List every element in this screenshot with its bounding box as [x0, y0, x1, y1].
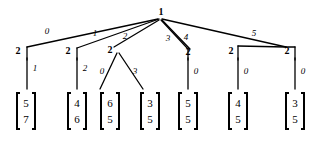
edge-label-leaf-0: 1	[30, 64, 40, 73]
leaf-vector-5: 4 5	[224, 92, 252, 130]
matrix-cells: 6 5	[105, 92, 115, 130]
node-internal-3: 2	[183, 47, 193, 57]
matrix-cell: 6	[107, 95, 113, 111]
edge-label-leaf-4: 0	[191, 67, 201, 76]
matrix-cell: 5	[107, 111, 113, 127]
bracket-right-icon	[243, 92, 248, 130]
matrix-cells: 4 5	[233, 92, 243, 130]
bracket-right-icon	[155, 92, 160, 130]
matrix-cells: 3 5	[145, 92, 155, 130]
matrix-cell: 6	[74, 111, 80, 127]
matrix-cells: 5 7	[21, 92, 31, 130]
leaf-vector-0: 5 7	[12, 92, 40, 130]
edge-label-leaf-6: 0	[298, 67, 308, 76]
leaf-vector-4: 5 5	[174, 92, 202, 130]
edge-label-leaf-2: 0	[97, 67, 107, 76]
edge-label-root-2: 2	[120, 32, 130, 41]
leaf-vector-3: 3 5	[136, 92, 164, 130]
bracket-right-icon	[82, 92, 87, 130]
bracket-left-icon	[100, 92, 105, 130]
node-internal-0: 2	[13, 46, 23, 56]
edge-label-root-3: 3	[163, 34, 173, 43]
bracket-left-icon	[178, 92, 183, 130]
node-internal-2: 2	[105, 45, 115, 55]
bracket-right-icon	[193, 92, 198, 130]
matrix-cells: 4 6	[72, 92, 82, 130]
matrix-cell: 5	[185, 111, 191, 127]
leaf-vector-1: 4 6	[63, 92, 91, 130]
matrix-cell: 4	[235, 95, 241, 111]
matrix-cell: 3	[147, 95, 153, 111]
leaf-vector-6: 3 5	[281, 92, 309, 130]
tree-diagram-canvas: 1 2 2 2 2 2 2 0 1 2 3 4 5 1 2 0 3 0 0 0 …	[0, 0, 315, 141]
bracket-right-icon	[300, 92, 305, 130]
matrix-cell: 5	[147, 111, 153, 127]
edge-label-leaf-3: 3	[130, 67, 140, 76]
matrix-cells: 5 5	[183, 92, 193, 130]
bracket-right-icon	[31, 92, 36, 130]
leaf-vector-2: 6 5	[96, 92, 124, 130]
edge-label-root-1: 1	[90, 29, 100, 38]
edge-label-root-0: 0	[42, 27, 52, 36]
edge-label-root-5: 5	[249, 29, 259, 38]
node-internal-1: 2	[63, 46, 73, 56]
matrix-cells: 3 5	[290, 92, 300, 130]
bracket-left-icon	[140, 92, 145, 130]
node-internal-4: 2	[226, 46, 236, 56]
matrix-cell: 5	[185, 95, 191, 111]
node-elbow-4b	[238, 46, 286, 47]
edge-label-leaf-5: 0	[241, 67, 251, 76]
matrix-cell: 4	[74, 95, 80, 111]
matrix-cell: 7	[23, 111, 29, 127]
bracket-left-icon	[67, 92, 72, 130]
matrix-cell: 3	[292, 95, 298, 111]
matrix-cell: 5	[23, 95, 29, 111]
bracket-right-icon	[115, 92, 120, 130]
bracket-left-icon	[228, 92, 233, 130]
bracket-left-icon	[285, 92, 290, 130]
node-internal-5: 2	[282, 46, 292, 56]
edge-label-root-4: 4	[181, 33, 191, 42]
edge-label-leaf-1: 2	[80, 64, 90, 73]
matrix-cell: 5	[292, 111, 298, 127]
bracket-left-icon	[16, 92, 21, 130]
node-root: 1	[156, 7, 166, 17]
matrix-cell: 5	[235, 111, 241, 127]
